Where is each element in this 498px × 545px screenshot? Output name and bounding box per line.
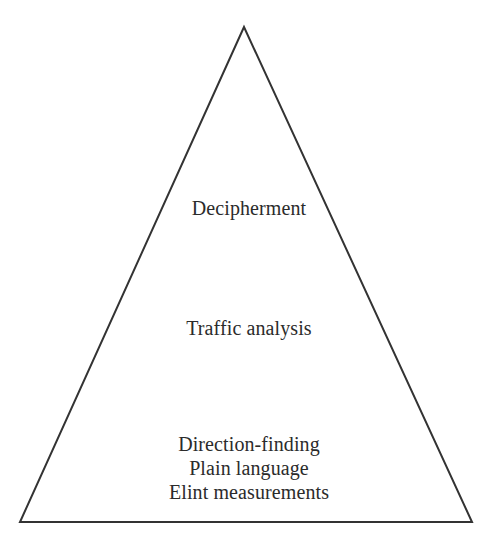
level-bottom-line-1: Direction-finding xyxy=(0,432,498,456)
level-middle-label: Traffic analysis xyxy=(0,316,498,340)
level-bottom-line-3: Elint measurements xyxy=(0,480,498,504)
level-top-label: Decipherment xyxy=(0,196,498,220)
level-bottom-line-2: Plain language xyxy=(0,456,498,480)
